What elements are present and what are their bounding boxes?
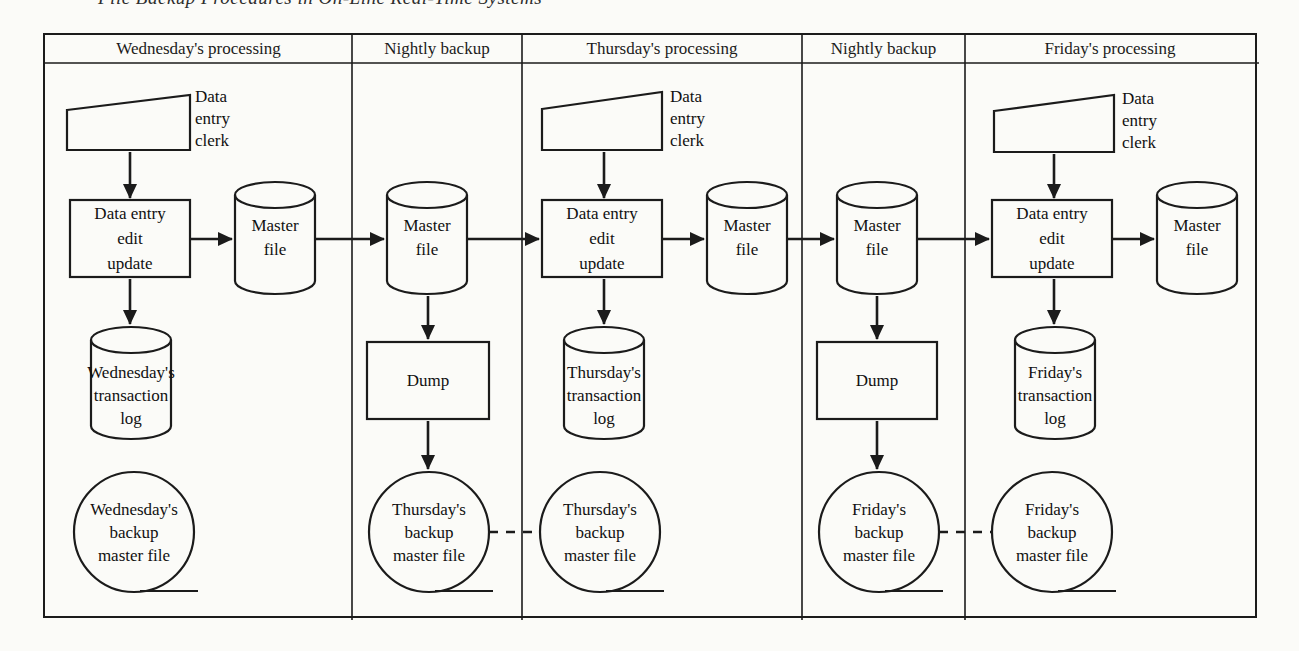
label-line: backup [404,521,453,544]
label-line: Friday's [852,498,906,521]
manual-input-trapezoid-friday [994,95,1114,152]
label-line: Friday's [993,361,1117,384]
backup-schedule-table: Wednesday's processing Nightly backup Th… [43,33,1257,618]
data-entry-clerk-label: Data entry clerk [195,86,230,152]
master-file-label: Master file [837,182,917,294]
label-line: Thursday's [563,498,637,521]
master-file-label: Master file [387,182,467,294]
transaction-log-cylinder-top [1015,327,1095,353]
label-line: file [416,238,439,262]
edit-update-box-label: Data entry edit update [992,200,1112,277]
data-entry-clerk-label: Data entry clerk [670,86,705,152]
label-line: Thursday's [542,361,666,384]
column-header-thursday: Thursday's processing [522,35,802,63]
transaction-log-cylinder-top [564,327,644,353]
label-line: transaction [542,384,666,407]
label-line: Dump [407,371,450,391]
manual-input-trapezoid-wednesday [67,95,190,150]
label-line: file [866,238,889,262]
label-line: master file [1016,544,1088,567]
label-line: log [542,407,666,430]
scanned-page: File Backup Procedures in On-Line Real-T… [0,0,1299,651]
dump-box-label: Dump [367,342,489,419]
label-line: Data entry [1016,201,1087,226]
label-line: Master [1173,214,1220,238]
label-line: backup [575,521,624,544]
label-line: clerk [1122,132,1157,154]
label-line: transaction [69,384,193,407]
label-line: backup [109,521,158,544]
master-file-label: Master file [707,182,787,294]
column-header-friday: Friday's processing [965,35,1255,63]
label-line: Master [853,214,900,238]
label-line: Wednesday's [90,498,178,521]
master-file-label: Master file [235,182,315,294]
label-line: transaction [993,384,1117,407]
label-line: master file [564,544,636,567]
label-line: update [107,251,152,276]
transaction-log-label: Thursday's transaction log [542,361,666,430]
label-line: Master [723,214,770,238]
label-line: Wednesday's [69,361,193,384]
transaction-log-label: Wednesday's transaction log [69,361,193,430]
label-line: file [1186,238,1209,262]
label-line: entry [195,108,230,130]
label-line: entry [1122,110,1157,132]
label-line: Data entry [566,201,637,226]
backup-master-file-label: Thursday's backup master file [369,472,489,592]
label-line: update [579,251,624,276]
backup-master-file-label: Friday's backup master file [819,472,939,592]
label-line: master file [843,544,915,567]
label-line: Master [251,214,298,238]
label-line: backup [854,521,903,544]
label-line: file [736,238,759,262]
label-line: edit [589,226,615,251]
backup-master-file-label: Wednesday's backup master file [74,472,194,592]
transaction-log-cylinder-top [91,327,171,353]
data-entry-clerk-label: Data entry clerk [1122,88,1157,154]
label-line: master file [98,544,170,567]
label-line: clerk [195,130,230,152]
label-line: backup [1027,521,1076,544]
edit-update-box-label: Data entry edit update [542,200,662,277]
column-header-backup1: Nightly backup [352,35,522,63]
label-line: log [993,407,1117,430]
transaction-log-label: Friday's transaction log [993,361,1117,430]
dump-box-label: Dump [817,342,937,419]
column-header-wednesday: Wednesday's processing [45,35,352,63]
running-title: File Backup Procedures in On-Line Real-T… [98,0,542,9]
label-line: file [264,238,287,262]
label-line: master file [393,544,465,567]
label-line: log [69,407,193,430]
label-line: Data entry [94,201,165,226]
master-file-label: Master file [1157,182,1237,294]
label-line: Data [670,86,705,108]
label-line: update [1029,251,1074,276]
backup-master-file-label: Thursday's backup master file [540,472,660,592]
label-line: Master [403,214,450,238]
label-line: Data [195,86,230,108]
column-header-backup2: Nightly backup [802,35,965,63]
backup-master-file-label: Friday's backup master file [992,472,1112,592]
label-line: edit [1039,226,1065,251]
label-line: Dump [856,371,899,391]
label-line: entry [670,108,705,130]
label-line: edit [117,226,143,251]
label-line: Data [1122,88,1157,110]
manual-input-trapezoid-thursday [542,92,662,150]
label-line: Thursday's [392,498,466,521]
label-line: clerk [670,130,705,152]
label-line: Friday's [1025,498,1079,521]
edit-update-box-label: Data entry edit update [70,200,190,277]
